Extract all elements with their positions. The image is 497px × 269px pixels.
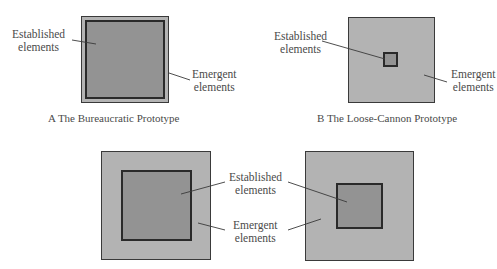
label-line: elements <box>274 43 327 56</box>
panel-a-established-label: Established elements <box>12 28 65 54</box>
panel-c-established-area <box>121 170 192 241</box>
panel-d-established-area <box>336 183 383 229</box>
label-line: elements <box>229 184 282 197</box>
panel-b-caption: B The Loose-Cannon Prototype <box>317 112 457 124</box>
label-line: elements <box>451 81 496 94</box>
label-line: Established <box>12 28 65 41</box>
panel-a-established-area <box>85 20 165 99</box>
panel-b-established-area <box>383 52 398 67</box>
panel-a-emergent-label: Emergent elements <box>192 68 237 94</box>
panel-cd-established-label: Established elements <box>229 171 282 197</box>
label-line: Emergent <box>192 68 237 81</box>
label-line: elements <box>12 41 65 54</box>
label-line: Established <box>274 30 327 43</box>
panel-b-established-label: Established elements <box>274 30 327 56</box>
label-line: Emergent <box>233 219 278 232</box>
label-line: Established <box>229 171 282 184</box>
label-line: Emergent <box>451 68 496 81</box>
panel-b-emergent-label: Emergent elements <box>451 68 496 94</box>
label-line: elements <box>233 232 278 245</box>
panel-a-emergent-pointer <box>169 73 190 80</box>
panel-cd-emergent-label: Emergent elements <box>233 219 278 245</box>
label-line: elements <box>192 81 237 94</box>
panel-a-caption: A The Bureaucratic Prototype <box>48 112 179 124</box>
